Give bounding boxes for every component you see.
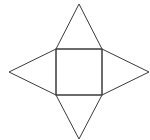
pyramid-net-diagram (0, 0, 150, 140)
triangle-right (102, 49, 149, 95)
triangle-bottom (56, 95, 102, 139)
square-base (56, 49, 102, 95)
triangle-top (56, 4, 102, 49)
pyramid-net-svg (0, 0, 150, 140)
triangle-left (9, 49, 56, 95)
